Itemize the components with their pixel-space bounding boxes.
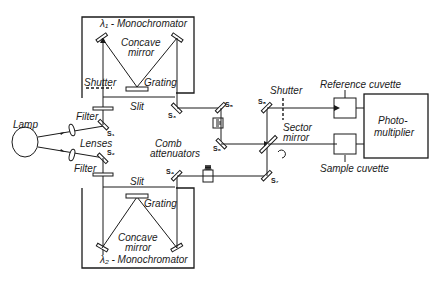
concave-mirror-label-top-2: mirror [128,47,155,58]
s6-label: S₆ [213,145,221,152]
grating-label-bottom: Grating [144,198,177,209]
spectrophotometer-diagram: λ₁ - Monochromator Concave mirror Gratin… [0,0,441,284]
sector-label-2: mirror [283,132,310,143]
s4-label: S₄ [166,168,174,175]
lenses-label: Lenses [80,138,112,149]
photomultiplier-label: Photo- [378,115,408,126]
sample-cuvette-label: Sample cuvette [320,163,389,174]
concave-mirror-label-bottom-2: mirror [125,242,152,253]
s5-label: S₅ [225,101,233,108]
lens-bottom [68,149,76,162]
shutter-label-left: Shutter [84,77,117,88]
lamp-label: Lamp [13,119,38,130]
slit-label-top: Slit [130,101,145,112]
filter-label-top: Filter [76,111,99,122]
comb-label-2: attenuators [150,148,200,159]
s7-label: S₇ [271,177,279,184]
reference-cuvette-label: Reference cuvette [320,79,402,90]
lamp-icon [12,127,38,157]
s8-label: S₈ [258,98,266,105]
s1-label: S₁ [107,130,115,137]
filter-label-bottom: Filter [74,163,97,174]
slit-label-bottom: Slit [130,176,145,187]
sample-cuvette [334,134,356,154]
filter-top [93,107,113,110]
shutter-label-right: Shutter [270,85,303,96]
s3-label: S₃ [168,112,176,119]
photomultiplier-label-2: multiplier [374,127,415,138]
reference-cuvette [334,98,356,118]
lens-top [68,124,76,137]
concave-mirror-tl [96,33,108,42]
rotation-icon [278,150,285,158]
s2-label: S₂ [107,149,115,156]
photomultiplier [364,94,428,158]
mono2-label: λ₂ - Monochromator [99,254,188,265]
grating-label-top: Grating [144,77,177,88]
mono1-label: λ₁ - Monochromator [99,18,188,29]
